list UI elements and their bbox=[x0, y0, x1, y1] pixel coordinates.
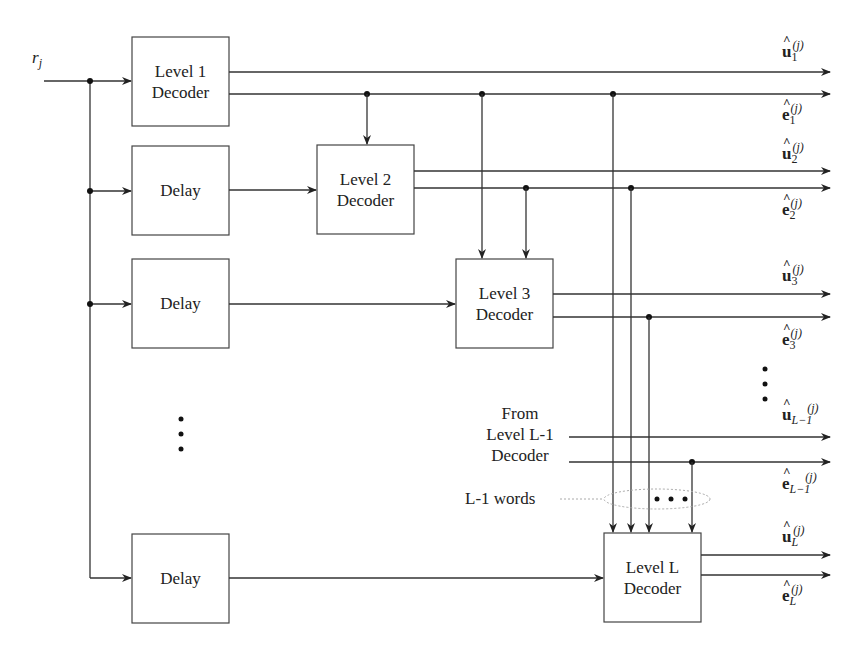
output-uL-1: uL−1(j) bbox=[782, 405, 819, 425]
block-label-line2: Decoder bbox=[476, 304, 534, 325]
block-label-line1: Level 3 bbox=[479, 283, 530, 304]
diagram-canvas bbox=[0, 0, 864, 652]
input-subscript: j bbox=[39, 56, 42, 70]
block-label-line1: Level 2 bbox=[340, 169, 391, 190]
output-e1: e1(j) bbox=[782, 105, 802, 125]
level2-decoder: Level 2 Decoder bbox=[317, 145, 414, 234]
output-u3: u3(j) bbox=[782, 266, 804, 286]
levelL-decoder: Level L Decoder bbox=[604, 533, 701, 622]
l-1-words-label: L-1 words bbox=[465, 488, 565, 509]
delay-L: Delay bbox=[132, 534, 229, 623]
delay-1: Delay bbox=[132, 146, 229, 235]
output-eL-1: eL−1(j) bbox=[782, 474, 817, 494]
block-label-line2: Decoder bbox=[337, 190, 395, 211]
block-label-line1: Level L bbox=[626, 557, 679, 578]
from-line3: Decoder bbox=[470, 445, 570, 466]
output-eL: eL(j) bbox=[782, 586, 803, 606]
output-e2: e2(j) bbox=[782, 200, 802, 220]
block-label-line1: Level 1 bbox=[155, 61, 206, 82]
from-line1: From bbox=[470, 403, 570, 424]
block-label-line1: Delay bbox=[160, 293, 201, 314]
block-label-line2: Decoder bbox=[624, 578, 682, 599]
from-level-L-1-label: From Level L-1 Decoder bbox=[470, 403, 570, 466]
from-line2: Level L-1 bbox=[470, 424, 570, 445]
level3-decoder: Level 3 Decoder bbox=[456, 259, 553, 348]
output-e3: e3(j) bbox=[782, 330, 802, 350]
delay-2: Delay bbox=[132, 259, 229, 348]
input-label: rj bbox=[32, 48, 42, 68]
block-label-line1: Delay bbox=[160, 180, 201, 201]
block-label-line1: Delay bbox=[160, 568, 201, 589]
input-symbol: r bbox=[32, 48, 39, 67]
output-uL: uL(j) bbox=[782, 527, 804, 547]
block-label-line2: Decoder bbox=[152, 82, 210, 103]
output-u1: u1(j) bbox=[782, 42, 804, 62]
level1-decoder: Level 1 Decoder bbox=[132, 37, 229, 126]
output-u2: u2(j) bbox=[782, 144, 804, 164]
